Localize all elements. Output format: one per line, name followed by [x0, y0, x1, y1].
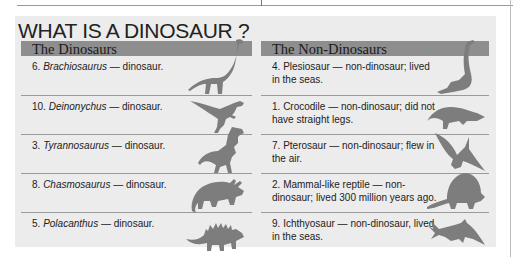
- item-desc: — dinosaur.: [98, 218, 154, 229]
- item-name: Chasmosaurus: [43, 179, 110, 190]
- list-item: 2. Mammal-like reptile — non-dinosaur; l…: [261, 174, 489, 213]
- item-name: Brachiosaurus: [43, 61, 107, 72]
- list-item: 9. Ichthyosaur — non-dinosaur, lived in …: [261, 213, 489, 247]
- ichthyosaur-icon: [427, 219, 485, 249]
- item-desc: — dinosaur.: [107, 61, 163, 72]
- item-desc: — dinosaur.: [109, 140, 165, 151]
- item-name: Pterosaur: [283, 140, 326, 151]
- item-name: Deinonychus: [49, 101, 107, 112]
- item-desc: — dinosaur.: [110, 179, 166, 190]
- list-item: 1. Crocodile — non-dinosaur; did not hav…: [261, 96, 489, 135]
- mammal-like-reptile-icon: [427, 173, 485, 211]
- item-number: 10.: [32, 101, 46, 112]
- top-rule: [17, 5, 513, 6]
- list-item: 5. Polacanthus — dinosaur.: [21, 213, 252, 247]
- list-item: 4. Plesiosaur — non-dinosaur; lived in t…: [261, 56, 489, 96]
- item-number: 1.: [272, 101, 280, 112]
- item-number: 2.: [272, 179, 280, 190]
- item-number: 7.: [272, 140, 280, 151]
- tyrannosaurus-icon: [196, 125, 246, 175]
- item-name: Mammal-like reptile: [283, 179, 370, 190]
- plesiosaur-icon: [437, 40, 481, 96]
- list-item: 3. Tyrannosaurus — dinosaur.: [21, 135, 252, 174]
- item-number: 6.: [32, 61, 40, 72]
- item-name: Crocodile: [283, 101, 325, 112]
- right-rule: [510, 0, 511, 257]
- item-number: 4.: [272, 61, 280, 72]
- crocodile-icon: [427, 103, 485, 129]
- item-number: 9.: [272, 218, 280, 229]
- list-item: 8. Chasmosaurus — dinosaur.: [21, 174, 252, 213]
- pterosaur-icon: [435, 133, 485, 173]
- chasmosaurus-icon: [188, 177, 246, 213]
- dinosaurs-column: The Dinosaurs 6. Brachiosaurus — dinosau…: [21, 41, 252, 247]
- item-name: Plesiosaur: [283, 61, 330, 72]
- list-item: 6. Brachiosaurus — dinosaur.: [21, 56, 252, 96]
- item-name: Polacanthus: [43, 218, 98, 229]
- item-number: 5.: [32, 218, 40, 229]
- list-item: 7. Pterosaur — non-dinosaur; flew in the…: [261, 135, 489, 174]
- brachiosaurus-icon: [186, 38, 246, 96]
- item-name: Tyrannosaurus: [43, 140, 109, 151]
- non-dinosaurs-column: The Non-Dinosaurs 4. Plesiosaur — non-di…: [261, 41, 489, 247]
- item-number: 3.: [32, 140, 40, 151]
- item-desc: — dinosaur.: [107, 101, 163, 112]
- item-number: 8.: [32, 179, 40, 190]
- polacanthus-icon: [186, 221, 246, 251]
- item-name: Ichthyosaur: [283, 218, 335, 229]
- column-divider-tick: [261, 0, 262, 6]
